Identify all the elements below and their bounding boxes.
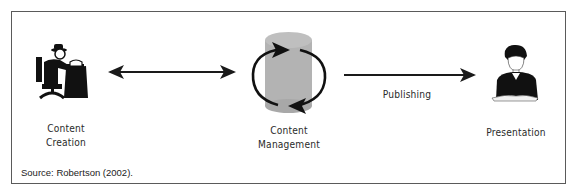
node-label-content-creation: Content Creation — [40, 122, 92, 150]
presenter-reading-icon — [492, 45, 538, 101]
diagram-canvas — [0, 0, 578, 194]
label-line: Presentation — [482, 126, 550, 140]
node-label-content-management: Content Management — [257, 124, 321, 152]
label-line: Management — [257, 138, 321, 152]
label-line: Content — [40, 122, 92, 136]
label-line: Creation — [40, 136, 92, 150]
node-label-presentation: Presentation — [482, 126, 550, 140]
source-caption: Source: Robertson (2002). — [21, 167, 133, 178]
edge-label-publishing: Publishing — [378, 88, 437, 102]
label-line: Content — [257, 124, 321, 138]
writer-at-desk-icon — [36, 44, 88, 98]
label-line: Publishing — [378, 88, 437, 102]
database-cycle-icon — [253, 32, 325, 114]
